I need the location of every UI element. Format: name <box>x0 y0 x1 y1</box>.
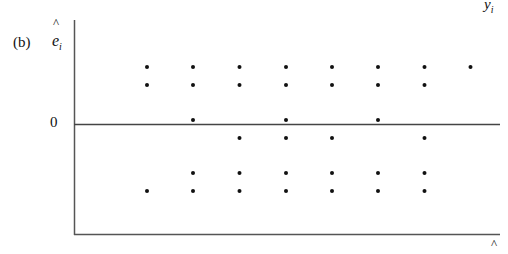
data-point <box>284 136 288 140</box>
data-point <box>238 171 242 175</box>
data-point <box>191 189 195 193</box>
data-point <box>376 65 380 69</box>
scatter-plot <box>0 0 508 254</box>
data-point <box>330 65 334 69</box>
data-point <box>330 83 334 87</box>
data-point <box>238 65 242 69</box>
data-point <box>145 65 149 69</box>
data-point <box>423 189 427 193</box>
data-point <box>330 171 334 175</box>
data-point <box>423 83 427 87</box>
data-point <box>376 189 380 193</box>
data-point <box>238 189 242 193</box>
data-point <box>376 83 380 87</box>
data-point <box>191 118 195 122</box>
data-point <box>284 118 288 122</box>
data-point <box>284 171 288 175</box>
data-point <box>330 189 334 193</box>
data-point <box>423 171 427 175</box>
data-point <box>238 83 242 87</box>
data-point <box>376 118 380 122</box>
data-point <box>284 83 288 87</box>
data-point <box>423 65 427 69</box>
data-point <box>284 189 288 193</box>
data-point <box>191 65 195 69</box>
data-point <box>284 65 288 69</box>
data-point <box>145 189 149 193</box>
data-point <box>145 83 149 87</box>
data-points <box>145 65 473 193</box>
data-point <box>238 136 242 140</box>
data-point <box>191 83 195 87</box>
data-point <box>469 65 473 69</box>
data-point <box>191 171 195 175</box>
data-point <box>376 171 380 175</box>
data-point <box>423 136 427 140</box>
data-point <box>330 136 334 140</box>
